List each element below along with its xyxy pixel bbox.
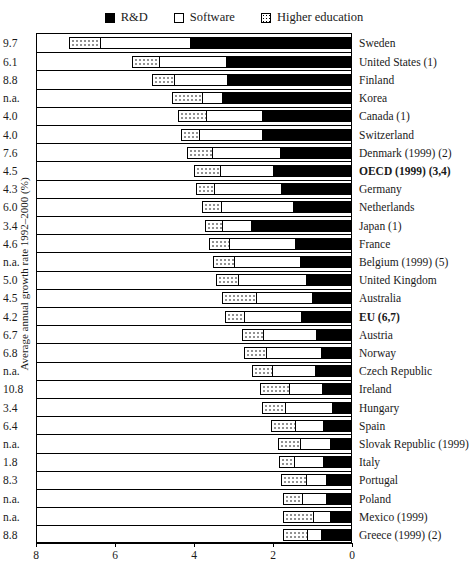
- segment-higher-education: [222, 292, 256, 304]
- stacked-bar: [205, 220, 351, 232]
- stacked-bar: [271, 420, 351, 432]
- segment-higher-education: [172, 92, 201, 104]
- table-row: 4.3Germany: [37, 180, 351, 198]
- segment-software: [100, 37, 190, 49]
- table-row: 4.6France: [37, 234, 351, 252]
- segment-rd: [330, 438, 351, 450]
- table-row: n.a.Slovak Republic (1999): [37, 434, 351, 452]
- stacked-bar: [260, 383, 351, 395]
- segment-rd: [222, 92, 351, 104]
- segment-software: [234, 256, 300, 268]
- country-label: Slovak Republic (1999): [359, 438, 469, 450]
- country-label: Sweden: [359, 37, 395, 49]
- legend-label-software: Software: [190, 10, 235, 25]
- segment-rd: [312, 292, 351, 304]
- segment-higher-education: [279, 456, 294, 468]
- segment-rd: [330, 511, 351, 523]
- growth-rate-value: 8.8: [3, 74, 33, 86]
- segment-rd: [332, 402, 351, 414]
- segment-higher-education: [283, 493, 303, 505]
- segment-higher-education: [196, 183, 214, 195]
- growth-rate-value: 4.5: [3, 292, 33, 304]
- legend-label-higher-education: Higher education: [277, 10, 363, 25]
- segment-higher-education: [242, 329, 262, 341]
- legend-swatch-software-icon: [174, 13, 184, 23]
- segment-software: [306, 474, 326, 486]
- legend-item-rd: R&D: [105, 10, 148, 25]
- segment-rd: [323, 456, 351, 468]
- growth-rate-value: 6.8: [3, 347, 33, 359]
- country-label: Finland: [359, 74, 394, 86]
- legend-item-higher-education: Higher education: [261, 10, 363, 25]
- country-label: Germany: [359, 183, 402, 195]
- segment-software: [285, 402, 332, 414]
- country-label: EU (6,7): [359, 311, 400, 323]
- segment-software: [220, 165, 273, 177]
- table-row: 6.8Norway: [37, 343, 351, 361]
- growth-rate-value: n.a.: [3, 365, 33, 377]
- x-axis-tick: [352, 543, 353, 547]
- segment-software: [272, 365, 315, 377]
- x-axis-tick: [36, 543, 37, 547]
- growth-rate-value: 7.6: [3, 147, 33, 159]
- stacked-bar: [222, 292, 351, 304]
- table-row: 8.8Greece (1999) (2): [37, 525, 351, 543]
- segment-software: [206, 110, 262, 122]
- stacked-bar: [262, 402, 351, 414]
- x-axis-tick-label: 8: [33, 549, 39, 561]
- table-row: 4.5OECD (1999) (3,4): [37, 161, 351, 179]
- table-row: 4.5Australia: [37, 289, 351, 307]
- country-label: Japan (1): [359, 220, 401, 232]
- segment-software: [295, 420, 323, 432]
- growth-rate-value: 10.8: [3, 383, 33, 395]
- stacked-bar: [283, 511, 351, 523]
- segment-software: [174, 74, 227, 86]
- segment-software: [212, 147, 280, 159]
- stacked-bar: [242, 329, 351, 341]
- stacked-bar: [194, 165, 351, 177]
- segment-higher-education: [205, 220, 222, 232]
- segment-software: [263, 329, 316, 341]
- table-row: 4.0Switzerland: [37, 125, 351, 143]
- table-row: 6.7Austria: [37, 325, 351, 343]
- country-label: Denmark (1999) (2): [359, 147, 452, 159]
- segment-higher-education: [181, 129, 199, 141]
- segment-software: [300, 438, 330, 450]
- segment-rd: [281, 183, 351, 195]
- stacked-bar: [178, 110, 351, 122]
- growth-rate-value: 4.0: [3, 110, 33, 122]
- segment-higher-education: [132, 56, 159, 68]
- stacked-bar: [283, 493, 351, 505]
- segment-rd: [190, 37, 351, 49]
- segment-software: [307, 529, 322, 541]
- growth-rate-value: 8.3: [3, 474, 33, 486]
- country-label: Mexico (1999): [359, 511, 428, 523]
- country-label: Spain: [359, 420, 385, 432]
- segment-higher-education: [252, 365, 272, 377]
- segment-rd: [321, 347, 351, 359]
- growth-rate-value: n.a.: [3, 511, 33, 523]
- table-row: 4.2EU (6,7): [37, 307, 351, 325]
- segment-software: [238, 274, 306, 286]
- stacked-bar: [278, 438, 351, 450]
- table-row: 8.3Portugal: [37, 471, 351, 489]
- plot-area: 9.7Sweden6.1United States (1)8.8Finlandn…: [36, 33, 352, 543]
- growth-rate-value: 4.3: [3, 183, 33, 195]
- legend-item-software: Software: [174, 10, 235, 25]
- growth-rate-value: 5.0: [3, 274, 33, 286]
- x-axis-tick-label: 6: [112, 549, 118, 561]
- country-label: Hungary: [359, 402, 399, 414]
- x-axis-tick-label: 0: [349, 549, 355, 561]
- legend-label-rd: R&D: [121, 10, 148, 25]
- country-label: Korea: [359, 92, 387, 104]
- stacked-bar: [152, 74, 351, 86]
- stacked-bar: [283, 529, 351, 541]
- stacked-bar: [132, 56, 351, 68]
- x-axis-tick-label: 4: [191, 549, 197, 561]
- growth-rate-value: 4.6: [3, 238, 33, 250]
- table-row: 8.8Finland: [37, 70, 351, 88]
- x-axis-tick: [273, 543, 274, 547]
- country-label: France: [359, 238, 390, 250]
- country-label: Netherlands: [359, 201, 415, 213]
- segment-software: [294, 456, 323, 468]
